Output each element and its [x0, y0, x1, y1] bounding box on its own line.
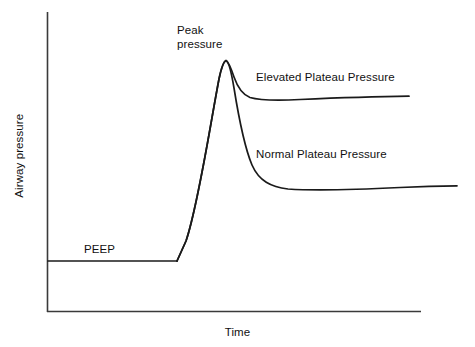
y-axis-label-wrapper: Airway pressure	[0, 0, 40, 312]
peak-pressure-annotation: Peakpressure	[177, 24, 223, 51]
y-axis-label: Airway pressure	[13, 114, 27, 198]
normal-plateau-annotation: Normal Plateau Pressure	[256, 148, 387, 162]
elevated-plateau-annotation: Elevated Plateau Pressure	[256, 71, 395, 85]
peep-annotation: PEEP	[84, 243, 115, 257]
x-axis-label: Time	[0, 326, 475, 340]
pressure-waveform-plot	[0, 0, 475, 347]
peak-pressure-annotation-line2: pressure	[177, 38, 223, 50]
airway-pressure-figure: Peakpressure Elevated Plateau Pressure N…	[0, 0, 475, 347]
peak-pressure-annotation-line1: Peak	[177, 24, 204, 36]
